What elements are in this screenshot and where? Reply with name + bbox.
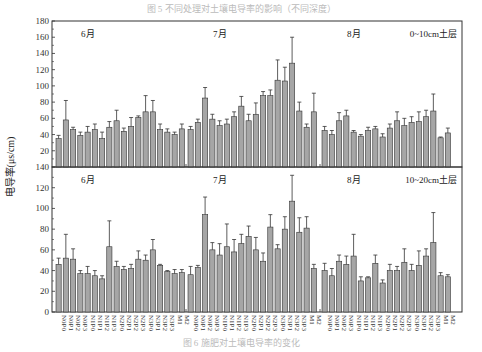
bar [195,122,200,167]
x-category-label: M1 [308,315,316,325]
bar [416,122,421,167]
bar [121,131,126,167]
bar [395,271,400,312]
bar [56,264,61,312]
bar [268,227,273,312]
bar [71,130,76,167]
bar [203,215,208,312]
x-category-label: N1P3 [242,315,250,331]
bar [100,279,105,312]
bar [246,236,251,312]
bar [165,272,170,312]
y-tick-label: 40 [40,266,50,276]
x-category-label: N3P3 [300,315,308,331]
bar [297,232,302,312]
bar [409,122,414,167]
x-category-label: M2 [315,315,323,325]
bar [210,119,215,167]
month-label: 7月 [213,175,227,185]
bar [322,271,327,312]
x-category-label: N3P0 [413,315,421,331]
bar [282,81,287,167]
x-category-label: N1P2 [103,315,111,331]
bar [136,118,141,167]
bar [114,266,119,312]
x-category-label: N0P2 [340,315,348,331]
bar [387,271,392,312]
bar [85,132,90,167]
bar [445,277,450,312]
x-category-label: N2P3 [405,315,413,331]
x-category-label: N2P1 [125,315,133,331]
bar [344,264,349,312]
bar [56,139,61,167]
x-category-label: N0P2 [74,315,82,331]
bar [261,261,266,312]
bar [275,249,280,312]
bar [424,256,429,312]
bar [92,276,97,312]
x-category-label: N1P1 [228,315,236,331]
bar [366,131,371,168]
bar [402,262,407,312]
y-tick-label: 60 [40,113,50,123]
bar [217,126,222,167]
bar [373,263,378,312]
bar [129,269,134,313]
bar [387,128,392,167]
bar [114,121,119,167]
bar [63,120,68,167]
bar [290,63,295,167]
bar [239,244,244,312]
x-category-label: N1P1 [96,315,104,331]
x-category-label: N0P1 [333,315,341,331]
bar [337,121,342,167]
x-category-label: N1P2 [235,315,243,331]
bar [395,121,400,167]
x-category-label: N0P1 [199,315,207,331]
bar [322,131,327,168]
x-category-label: N0P2 [206,315,214,331]
bar [329,135,334,167]
y-tick-label: 80 [40,97,50,107]
bar [188,130,193,167]
y-tick-label: 140 [36,162,50,172]
x-category-label: N1P2 [369,315,377,331]
month-label: 8月 [347,175,361,185]
bar [136,259,141,312]
bar [337,261,342,312]
x-category-label: N2P3 [271,315,279,331]
bar [311,112,316,167]
bar [63,258,68,312]
x-category-label: N2P1 [257,315,265,331]
x-category-label: N1P0 [355,315,363,331]
bar [282,229,287,312]
x-category-label: N3P3 [168,315,176,331]
x-category-label: N3P1 [420,315,428,331]
x-category-label: N2P2 [264,315,272,331]
bar [107,247,112,312]
month-label: 6月 [81,29,95,39]
y-tick-label: 120 [36,183,50,193]
y-tick-label: 60 [40,245,50,255]
x-category-label: N1P0 [89,315,97,331]
bar [143,260,148,312]
x-category-label: M2 [183,315,191,325]
x-category-label: N3P1 [154,315,162,331]
month-label: 8月 [347,29,361,39]
bar [232,117,237,167]
x-category-label: N3P2 [427,315,435,331]
figure-caption-top: 图 5 不同处理对土壤电导率的影响（不同深度） [0,2,482,15]
bar [344,116,349,167]
bar [165,132,170,167]
y-tick-label: 140 [36,48,50,58]
bar [121,270,126,312]
bar [424,117,429,167]
y-tick-label: 160 [36,32,50,42]
y-tick-label: 0 [45,307,50,317]
bar [224,247,229,312]
x-category-label: N0P3 [81,315,89,331]
bar [253,250,258,312]
bar [224,124,229,167]
x-category-label: N0P3 [213,315,221,331]
